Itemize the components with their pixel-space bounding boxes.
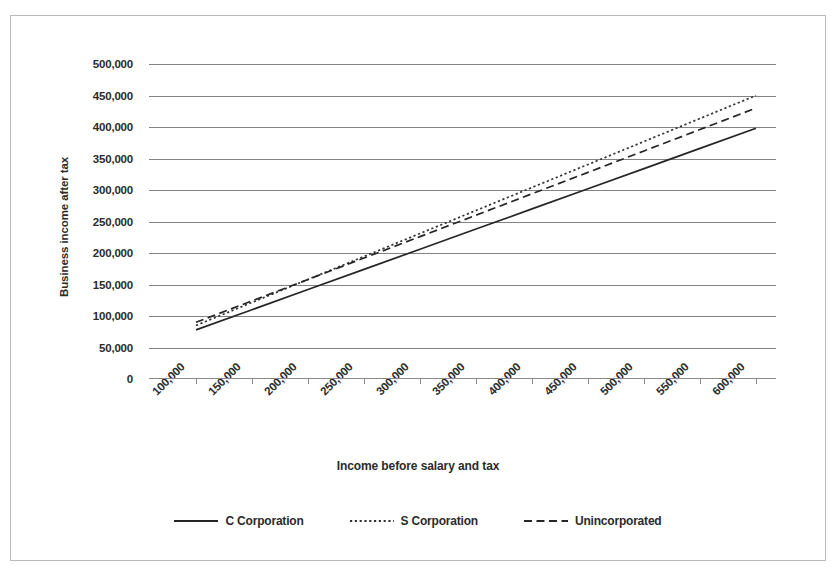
series-line (196, 108, 756, 322)
legend-swatch-solid (174, 516, 218, 526)
x-axis-tick (308, 379, 309, 384)
series-lines (149, 64, 776, 379)
x-axis-tick (588, 379, 589, 384)
y-axis-tick-label: 350,000 (13, 153, 133, 165)
plot-area: 050,000100,000150,000200,000250,000300,0… (149, 64, 776, 379)
legend-label: C Corporation (225, 514, 303, 528)
y-axis-tick-label: 300,000 (13, 184, 133, 196)
chart-container: Business income after tax 050,000100,000… (10, 15, 826, 561)
x-axis-tick (252, 379, 253, 384)
legend-item[interactable]: Unincorporated (524, 514, 662, 528)
y-axis-tick-label: 450,000 (13, 90, 133, 102)
y-axis-tick-label: 0 (13, 373, 133, 385)
x-axis-tick (476, 379, 477, 384)
series-line (196, 128, 756, 330)
legend-item[interactable]: S Corporation (350, 514, 478, 528)
y-axis-tick-label: 100,000 (13, 310, 133, 322)
x-axis-tick (532, 379, 533, 384)
y-axis-tick-label: 200,000 (13, 247, 133, 259)
y-axis-tick-label: 50,000 (13, 342, 133, 354)
y-axis-tick-label: 500,000 (13, 58, 133, 70)
x-axis-tick (644, 379, 645, 384)
y-axis-tick-label: 400,000 (13, 121, 133, 133)
y-axis-tick-label: 150,000 (13, 279, 133, 291)
legend-item[interactable]: C Corporation (174, 514, 303, 528)
x-axis-title: Income before salary and tax (11, 459, 825, 473)
x-axis-tick (700, 379, 701, 384)
chart-legend: C CorporationS CorporationUnincorporated (11, 514, 825, 528)
legend-swatch-dotted (350, 516, 394, 526)
legend-swatch-dashed (524, 516, 568, 526)
y-axis-tick-label: 250,000 (13, 216, 133, 228)
legend-label: Unincorporated (575, 514, 662, 528)
x-axis-tick (756, 379, 757, 384)
legend-label: S Corporation (401, 514, 478, 528)
x-axis-tick (364, 379, 365, 384)
x-axis-tick (420, 379, 421, 384)
x-axis-tick (196, 379, 197, 384)
